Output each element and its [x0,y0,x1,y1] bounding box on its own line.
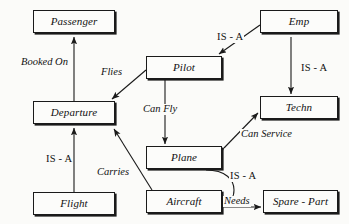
relationship-label-can-fly: Can Fly [142,104,178,115]
entity-label: Departure [51,107,97,118]
relationship-label-flies: Flies [100,67,123,78]
entity-plane[interactable]: Plane [146,146,222,169]
relationship-label-text: Needs [224,195,250,206]
entity-emp[interactable]: Emp [260,10,338,33]
entity-label: Passenger [51,16,98,27]
relationship-label-text: IS - A [46,153,72,164]
entity-label: Techn [286,102,312,113]
entity-spare-part[interactable]: Spare - Part [263,190,338,213]
relationship-label-needs: Needs [223,196,251,207]
entity-flight[interactable]: Flight [33,192,115,215]
entity-aircraft[interactable]: Aircraft [146,190,222,213]
relationship-label-text: Can Fly [143,103,177,114]
diagram-canvas: Passenger Departure Flight Pilot Plane A… [0,0,349,224]
entity-label: Pilot [173,62,195,73]
entity-pilot[interactable]: Pilot [146,56,222,79]
relationship-label-text: Carries [97,166,129,177]
entity-label: Emp [289,16,309,27]
entity-passenger[interactable]: Passenger [33,10,115,33]
relationship-label-carries: Carries [96,167,130,178]
relationship-label-text: IS - A [301,62,327,73]
relationship-label-is-a-flight: IS - A [45,154,73,165]
relationship-label-text: Can Service [241,128,292,139]
entity-label: Aircraft [166,196,201,207]
relationship-label-can-service: Can Service [240,129,293,140]
entity-label: Plane [171,152,197,163]
entity-techn[interactable]: Techn [260,96,338,119]
relationship-label-is-a-techn: IS - A [300,63,328,74]
relationship-label-text: IS - A [217,31,243,42]
relationship-label-is-a-plane: IS - A [229,171,257,182]
relationship-label-booked-on: Booked On [20,57,69,68]
relationship-label-text: IS - A [230,170,256,181]
relationship-label-is-a-pilot: IS - A [216,32,244,43]
relationship-label-text: Flies [101,66,122,77]
entity-label: Spare - Part [273,196,328,207]
entity-label: Flight [60,198,88,209]
entity-departure[interactable]: Departure [33,101,115,124]
relationship-label-text: Booked On [21,56,68,67]
